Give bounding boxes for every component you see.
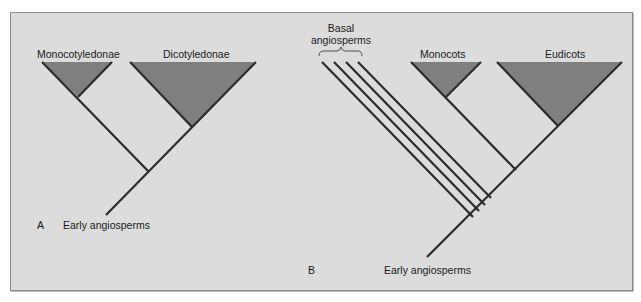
- basal-angiosperms-brace: [319, 47, 362, 56]
- basal-label-line2: angiosperms: [305, 34, 377, 46]
- panel-a-tree: [42, 62, 256, 215]
- panel-a-root-label: Early angiosperms: [63, 219, 150, 231]
- basal-label-line1: Basal: [310, 22, 372, 34]
- monocots-clade-triangle: [411, 62, 481, 97]
- eudicots-label: Eudicots: [545, 48, 585, 60]
- dicotyledonae-label: Dicotyledonae: [163, 48, 230, 60]
- monocotyledonae-label: Monocotyledonae: [37, 48, 120, 60]
- panel-b-letter: B: [308, 264, 315, 276]
- eudicots-clade-triangle: [497, 62, 622, 126]
- monocotyledonae-clade-triangle: [42, 62, 112, 97]
- monocots-label: Monocots: [420, 48, 466, 60]
- dicotyledonae-clade-triangle: [130, 62, 256, 127]
- panel-b-root-label: Early angiosperms: [384, 264, 471, 276]
- panel-b-tree: [319, 47, 622, 257]
- panel-a-letter: A: [37, 219, 44, 231]
